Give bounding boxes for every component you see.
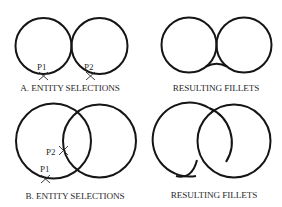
circle-right (72, 18, 128, 74)
circle-left-inner-arc (209, 108, 232, 162)
circle-left (16, 104, 91, 179)
point-label-p2: P2 (46, 147, 56, 157)
point-label-p2: P2 (84, 62, 94, 72)
fillet-arc (206, 64, 227, 67)
panel-a-selections: P1 P2 A. ENTITY SELECTIONS (16, 18, 128, 93)
point-label-p1: P1 (37, 62, 47, 72)
circle-left (162, 18, 217, 73)
panel-b-selections: P2 P1 B. ENTITY SELECTIONS (16, 104, 136, 202)
caption-a-result: RESULTING FILLETS (173, 83, 260, 93)
diagram-svg: P1 P2 A. ENTITY SELECTIONS RESULTING FIL… (0, 0, 282, 207)
circle-right (217, 18, 272, 73)
circle-left-trimmed (153, 103, 209, 177)
fillet-diagram: P1 P2 A. ENTITY SELECTIONS RESULTING FIL… (0, 0, 282, 207)
caption-b-selections: B. ENTITY SELECTIONS (26, 191, 125, 201)
circle-right (63, 105, 136, 178)
caption-a-selections: A. ENTITY SELECTIONS (20, 83, 119, 93)
point-label-p1: P1 (40, 164, 50, 174)
circle-right (198, 105, 271, 178)
panel-a-result: RESULTING FILLETS (162, 18, 272, 94)
panel-b-result: RESULTING FILLETS (153, 103, 271, 200)
caption-b-result: RESULTING FILLETS (171, 190, 258, 200)
